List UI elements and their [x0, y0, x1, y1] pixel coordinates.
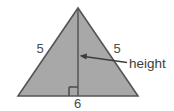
label-left-side: 5 [36, 41, 43, 56]
label-base: 6 [74, 96, 81, 111]
label-right-side: 5 [113, 41, 120, 56]
triangle-diagram: 5 5 6 height [0, 0, 174, 111]
geometry-figure-canvas: 5 5 6 height [0, 0, 174, 111]
label-height-annotation: height [129, 56, 166, 71]
